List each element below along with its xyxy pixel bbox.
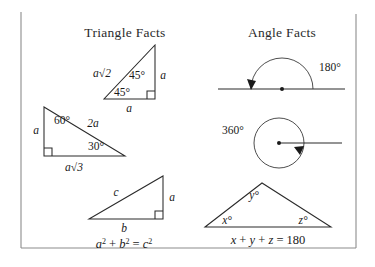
- pythagorean-eq-plus: +: [106, 237, 119, 251]
- full-angle-center-dot: [277, 141, 281, 145]
- left-panel-title: Triangle Facts: [84, 25, 165, 40]
- triangle-pythagorean-horizontal-leg-label: b: [121, 222, 127, 234]
- triangle-30-60-90-vertical-leg-label: a: [33, 124, 39, 136]
- triangle-45-45-90: a√2 45° 45° a a: [93, 45, 166, 114]
- angle-sum-eq-plus1: +: [236, 233, 249, 247]
- triangle-pythagorean-right-angle-marker: [155, 211, 163, 219]
- straight-angle-arrowhead: [247, 79, 256, 90]
- triangle-45-45-90-vertical-leg-label: a: [160, 69, 166, 81]
- triangle-45-45-90-horizontal-leg-label: a: [126, 102, 132, 114]
- triangle-angle-sum-x-label: x°: [221, 214, 232, 226]
- angle-sum-eq-sum: 180: [287, 233, 306, 247]
- triangle-angle-sum-y-label: y°: [248, 189, 259, 202]
- pythagorean-equation: a2 + b2 = c2: [96, 237, 153, 252]
- triangle-pythagorean: c a b a2 + b2 = c2: [89, 176, 175, 251]
- triangle-30-60-90-angle-right-label: 30°: [88, 140, 105, 152]
- triangle-45-45-90-right-angle-marker: [147, 91, 155, 99]
- triangle-pythagorean-vertical-leg-label: a: [169, 191, 175, 203]
- triangle-angle-sum: x° y° z° x + y + z = 180: [205, 183, 331, 247]
- triangle-45-45-90-angle-left-label: 45°: [114, 86, 131, 98]
- triangle-30-60-90: a 60° 2a 30° a√3: [33, 107, 125, 173]
- triangle-30-60-90-right-angle-marker: [44, 148, 52, 156]
- straight-angle-label: 180°: [319, 61, 341, 73]
- triangle-30-60-90-horizontal-leg-label: a√3: [65, 161, 83, 173]
- triangle-angle-sum-z-label: z°: [297, 214, 307, 226]
- straight-angle-arc: [251, 58, 313, 89]
- straight-angle-vertex-dot: [280, 87, 284, 91]
- math-facts-figure: Triangle Facts a√2 45° 45° a a a: [0, 0, 375, 267]
- pythagorean-eq-equals: =: [129, 237, 142, 251]
- angle-sum-equation: x + y + z = 180: [230, 233, 306, 247]
- angle-sum-eq-equals: =: [273, 233, 286, 247]
- triangle-45-45-90-angle-top-label: 45°: [129, 69, 146, 81]
- triangle-30-60-90-angle-top-label: 60°: [54, 114, 71, 126]
- full-angle-diagram: 360°: [222, 118, 342, 168]
- full-angle-label: 360°: [222, 124, 244, 136]
- angle-sum-eq-plus2: +: [255, 233, 268, 247]
- triangle-pythagorean-outline: [89, 176, 163, 219]
- right-panel-title: Angle Facts: [248, 25, 316, 40]
- straight-angle-diagram: 180°: [218, 58, 345, 91]
- pythagorean-eq-c-exp: 2: [148, 237, 152, 246]
- figure-canvas: Triangle Facts a√2 45° 45° a a a: [0, 0, 375, 267]
- triangle-pythagorean-hypotenuse-label: c: [113, 186, 118, 198]
- triangle-30-60-90-hypotenuse-label: 2a: [87, 117, 99, 129]
- triangle-45-45-90-hypotenuse-label: a√2: [93, 67, 111, 79]
